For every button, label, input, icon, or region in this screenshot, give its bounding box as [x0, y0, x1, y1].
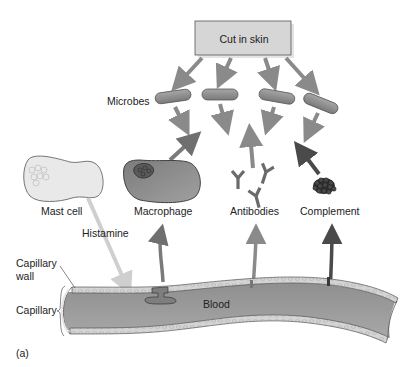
macrophage-icon — [124, 160, 201, 203]
microbes-label: Microbes — [107, 96, 150, 107]
box-to-microbe-arrows — [178, 58, 313, 88]
antibodies-icon — [232, 163, 274, 209]
microbes — [154, 88, 339, 115]
capillary-label: Capillary — [16, 305, 57, 316]
capillary-wall-label-line2: wall — [16, 271, 34, 282]
cut-in-skin-label: Cut in skin — [196, 22, 292, 56]
blood-label: Blood — [203, 299, 230, 310]
inflammation-diagram: Cut in skin Microbes Mast cell Macrophag… — [0, 0, 420, 367]
mast-cell-icon — [24, 156, 103, 201]
complement-label: Complement — [300, 206, 360, 217]
mast-cell-label: Mast cell — [41, 206, 82, 217]
complement-icon — [313, 178, 336, 194]
histamine-label: Histamine — [82, 228, 129, 239]
histamine-arrow — [88, 198, 127, 287]
microbe-down-arrows — [175, 104, 318, 134]
antibodies-label: Antibodies — [230, 206, 279, 217]
macrophage-label: Macrophage — [134, 206, 192, 217]
panel-label: (a) — [16, 348, 29, 359]
capillary-wall-label-line1: Capillary — [16, 258, 57, 269]
